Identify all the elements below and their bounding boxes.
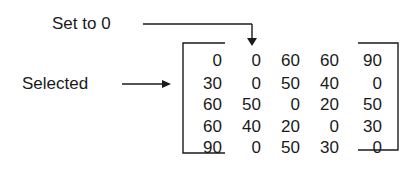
matrix-cell: 0 bbox=[225, 74, 261, 94]
matrix-cell: 90 bbox=[346, 51, 382, 71]
matrix-cell: 0 bbox=[346, 138, 382, 158]
matrix-cell: 50 bbox=[264, 138, 300, 158]
matrix-cell: 30 bbox=[346, 117, 382, 137]
matrix-cell: 0 bbox=[346, 74, 382, 94]
matrix-cell: 60 bbox=[186, 117, 222, 137]
matrix-cell: 60 bbox=[264, 51, 300, 71]
matrix-cell: 40 bbox=[303, 74, 339, 94]
matrix-cell: 90 bbox=[186, 138, 222, 158]
matrix-cell: 0 bbox=[264, 95, 300, 115]
matrix-cell: 0 bbox=[225, 138, 261, 158]
matrix-cell: 50 bbox=[346, 95, 382, 115]
matrix-cell: 40 bbox=[225, 117, 261, 137]
matrix-cell: 30 bbox=[186, 74, 222, 94]
matrix-cell: 20 bbox=[264, 117, 300, 137]
matrix-cell: 20 bbox=[303, 95, 339, 115]
matrix-cell: 50 bbox=[225, 95, 261, 115]
selected-arrow-icon bbox=[122, 80, 171, 88]
matrix-cell: 60 bbox=[303, 51, 339, 71]
matrix-cell: 0 bbox=[303, 117, 339, 137]
matrix-cell: 0 bbox=[186, 51, 222, 71]
matrix-cell: 50 bbox=[264, 74, 300, 94]
matrix-cell: 0 bbox=[225, 51, 261, 71]
matrix-cell: 60 bbox=[186, 95, 222, 115]
matrix-cell: 30 bbox=[303, 138, 339, 158]
